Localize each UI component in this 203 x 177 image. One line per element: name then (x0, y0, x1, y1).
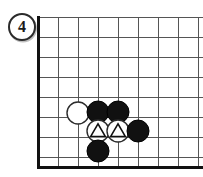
stone-black[interactable] (127, 120, 149, 142)
stone-disc (87, 140, 109, 162)
stone-disc (67, 102, 89, 124)
stone-black[interactable] (87, 140, 109, 162)
go-diagram-page: 4 (0, 0, 203, 177)
move-number-label: 4 (18, 19, 26, 35)
stone-white[interactable] (67, 102, 89, 124)
move-number-badge: 4 (8, 13, 36, 41)
stone-disc (127, 120, 149, 142)
stone-white-marked[interactable] (87, 120, 109, 142)
grid-vertical-lines (38, 17, 198, 167)
stone-white-marked[interactable] (107, 120, 129, 142)
stones-layer[interactable] (67, 101, 149, 162)
